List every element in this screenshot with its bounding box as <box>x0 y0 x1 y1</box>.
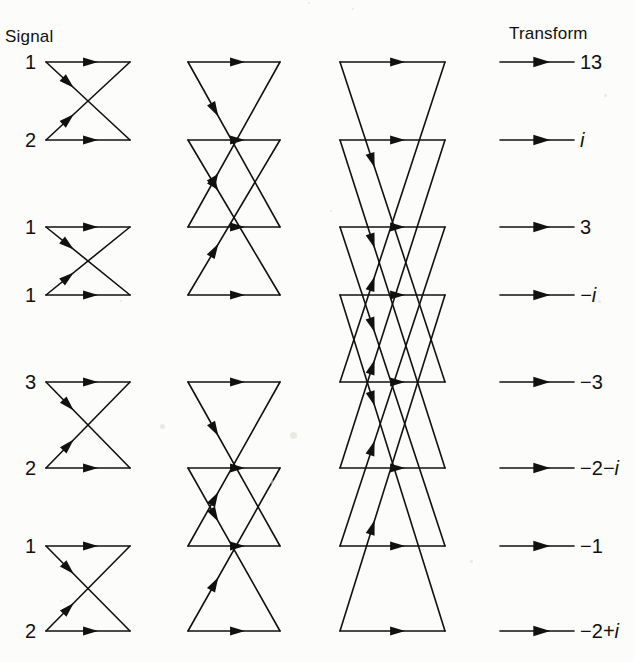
arrowhead-stage2-d-up-3 <box>207 577 218 592</box>
arrowhead-stage2-h-bot-1 <box>230 290 245 299</box>
arrowhead-stage3-d-down-3 <box>366 390 375 406</box>
arrowhead-stage2-h-bot-3 <box>230 626 245 635</box>
arrowhead-stage1-h-top-1 <box>83 222 98 231</box>
signal-header: Signal <box>5 27 53 47</box>
signal-input-6: 1 <box>25 535 36 558</box>
arrowhead-stage2-h-top-2 <box>230 377 245 386</box>
speck-7 <box>470 560 473 563</box>
transform-output-6: −1 <box>580 535 603 558</box>
speck-3 <box>160 424 165 429</box>
arrowhead-stage1-h-bot-0 <box>83 135 98 144</box>
fft-butterfly-diagram: Signal Transform 12113212 13i3−i−3−2−i−1… <box>0 0 634 662</box>
signal-input-7: 2 <box>25 620 36 643</box>
signal-input-1: 2 <box>25 129 36 152</box>
arrowhead-stage3-h-bot-3 <box>390 626 405 635</box>
signal-input-4: 3 <box>25 371 36 394</box>
arrowhead-output-1 <box>533 135 550 145</box>
speck-4 <box>352 8 354 10</box>
speck-9 <box>608 470 610 472</box>
speck-2 <box>290 432 297 439</box>
transform-output-1: i <box>580 129 584 152</box>
arrowhead-stage2-d-up-1 <box>207 244 219 259</box>
signal-input-5: 2 <box>25 457 36 480</box>
arrowhead-stage1-d-up-1 <box>59 273 74 286</box>
flow-graph-canvas <box>0 0 634 662</box>
signal-input-0: 1 <box>25 51 36 74</box>
arrowhead-stage1-h-top-0 <box>83 57 98 66</box>
arrowhead-stage1-d-down-1 <box>59 236 74 249</box>
arrowhead-output-2 <box>533 222 550 232</box>
arrowhead-stage3-d-up-2 <box>366 441 375 457</box>
arrowhead-output-6 <box>533 541 550 551</box>
transform-output-0: 13 <box>580 51 602 74</box>
arrowhead-stage3-d-up-3 <box>366 520 375 536</box>
arrowhead-stage3-h-top-1 <box>390 135 405 144</box>
arrowhead-stage3-d-down-0 <box>366 152 375 168</box>
arrowhead-stage1-h-bot-2 <box>83 463 98 472</box>
transform-output-7: −2+i <box>580 620 619 643</box>
arrowhead-stage3-h-bot-2 <box>390 541 405 550</box>
signal-input-3: 1 <box>25 284 36 307</box>
transform-output-2: 3 <box>580 216 591 239</box>
arrowhead-output-5 <box>533 463 550 473</box>
transform-output-4: −3 <box>580 371 603 394</box>
arrowhead-stage2-d-down-0 <box>207 101 218 116</box>
arrowhead-output-0 <box>533 57 550 67</box>
arrowhead-stage3-h-top-3 <box>390 290 405 299</box>
arrowhead-stage3-h-top-2 <box>390 222 405 231</box>
speck-5 <box>598 300 601 303</box>
transform-header: Transform <box>509 24 588 44</box>
arrowhead-stage3-d-down-2 <box>366 317 375 333</box>
speck-0 <box>308 2 310 4</box>
arrowhead-stage3-h-top-0 <box>390 57 405 66</box>
speck-11 <box>330 210 332 212</box>
speck-10 <box>60 600 62 602</box>
arrowhead-stage3-d-up-1 <box>366 360 375 376</box>
arrowhead-stage1-h-bot-1 <box>83 290 98 299</box>
arrowhead-stage2-d-down-2 <box>207 421 218 436</box>
arrowhead-stage1-h-top-2 <box>83 377 98 386</box>
speck-1 <box>604 94 607 97</box>
transform-output-5: −2−i <box>580 457 619 480</box>
arrowhead-output-3 <box>533 290 550 300</box>
arrowhead-output-7 <box>533 626 550 636</box>
arrowhead-stage1-h-top-3 <box>83 541 98 550</box>
speck-6 <box>270 480 274 484</box>
signal-input-2: 1 <box>25 216 36 239</box>
arrowhead-stage2-h-top-0 <box>230 57 245 66</box>
arrowhead-stage3-d-down-1 <box>366 233 375 249</box>
arrowhead-stage3-d-up-0 <box>366 276 375 292</box>
arrowhead-output-4 <box>533 377 550 387</box>
arrowhead-stage1-h-bot-3 <box>83 626 98 635</box>
speck-8 <box>120 300 122 302</box>
transform-output-3: −i <box>580 284 596 307</box>
